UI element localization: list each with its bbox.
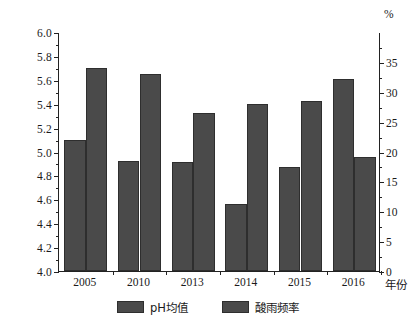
bar xyxy=(193,113,214,271)
bar xyxy=(172,162,193,271)
left-axis-tick xyxy=(54,129,59,130)
bar xyxy=(64,140,85,271)
left-axis-minor-tick xyxy=(56,188,59,189)
right-axis-tick-label: 20 xyxy=(386,147,398,159)
right-axis-minor-tick xyxy=(379,138,382,139)
left-axis-tick-label: 5.2 xyxy=(37,123,52,135)
x-axis-tick xyxy=(166,271,167,275)
left-axis-tick xyxy=(54,57,59,58)
x-axis-label-2010: 2010 xyxy=(127,276,150,288)
left-axis-tick-label: 4.4 xyxy=(37,218,52,230)
right-axis-tick xyxy=(379,212,384,213)
x-axis-label-2014: 2014 xyxy=(234,276,257,288)
right-axis-tick xyxy=(379,123,384,124)
right-axis-tick xyxy=(379,153,384,154)
right-axis-tick-label: 25 xyxy=(386,117,398,129)
right-axis-minor-tick xyxy=(379,227,382,228)
left-axis-minor-tick xyxy=(56,164,59,165)
x-axis-tick xyxy=(113,271,114,275)
left-axis-minor-tick xyxy=(56,141,59,142)
bar xyxy=(86,68,107,271)
x-axis-tick xyxy=(274,271,275,275)
left-axis-tick-label: 4.0 xyxy=(37,266,52,278)
bar xyxy=(225,204,246,271)
x-axis-label-2016: 2016 xyxy=(342,276,365,288)
right-axis-tick-label: 35 xyxy=(386,57,398,69)
left-axis-tick-label: 5.4 xyxy=(37,99,52,111)
left-axis-tick xyxy=(54,153,59,154)
right-axis-minor-tick xyxy=(379,257,382,258)
bar xyxy=(118,161,139,271)
x-axis-label-2015: 2015 xyxy=(288,276,311,288)
bar xyxy=(279,167,300,271)
legend-item-acid-rain-frequency[interactable]: 酸雨频率 xyxy=(222,299,299,315)
bar xyxy=(247,104,268,271)
x-axis-label-2005: 2005 xyxy=(73,276,96,288)
right-axis-minor-tick xyxy=(379,167,382,168)
right-axis-tick-label: 10 xyxy=(386,206,398,218)
left-axis-minor-tick xyxy=(56,212,59,213)
legend-label-acid-rain-frequency: 酸雨频率 xyxy=(255,299,299,315)
left-axis-tick xyxy=(54,200,59,201)
left-axis-tick xyxy=(54,272,59,273)
legend-swatch-acid-rain-frequency xyxy=(222,301,249,313)
left-axis-minor-tick xyxy=(56,93,59,94)
right-axis-tick-label: 15 xyxy=(386,176,398,188)
x-axis-label-2013: 2013 xyxy=(181,276,204,288)
left-axis-tick xyxy=(54,176,59,177)
left-axis-minor-tick xyxy=(56,236,59,237)
left-axis-tick-label: 4.2 xyxy=(37,242,52,254)
bar xyxy=(333,79,354,271)
x-axis-tick xyxy=(220,271,221,275)
right-axis-minor-tick xyxy=(379,48,382,49)
left-axis-tick xyxy=(54,248,59,249)
left-axis-tick-label: 4.6 xyxy=(37,194,52,206)
right-axis-tick xyxy=(379,182,384,183)
left-axis-minor-tick xyxy=(56,117,59,118)
legend-item-ph[interactable]: pH均值 xyxy=(117,299,188,315)
x-axis-tick xyxy=(381,271,382,275)
left-axis-tick-label: 5.0 xyxy=(37,147,52,159)
left-axis-tick-label: 6.0 xyxy=(37,27,52,39)
bar xyxy=(354,157,375,271)
right-axis-minor-tick xyxy=(379,108,382,109)
left-axis-minor-tick xyxy=(56,69,59,70)
left-axis-tick xyxy=(54,224,59,225)
right-axis-tick-label: 5 xyxy=(386,236,392,248)
legend-swatch-ph xyxy=(117,301,144,313)
left-axis-tick xyxy=(54,81,59,82)
chart-legend: pH均值 酸雨频率 xyxy=(0,299,416,315)
left-axis-tick xyxy=(54,105,59,106)
bar xyxy=(301,101,322,271)
right-axis-tick xyxy=(379,242,384,243)
x-axis-title: 年份 xyxy=(385,276,407,292)
left-axis-tick-label: 4.8 xyxy=(37,170,52,182)
acid-rain-bar-chart: % 4.04.24.44.64.85.05.25.45.65.86.0 0510… xyxy=(0,0,416,332)
right-axis-minor-tick xyxy=(379,197,382,198)
right-axis-tick-label: 30 xyxy=(386,87,398,99)
right-axis-minor-tick xyxy=(379,78,382,79)
legend-label-ph: pH均值 xyxy=(150,299,188,315)
left-axis-minor-tick xyxy=(56,260,59,261)
right-axis-unit-label: % xyxy=(384,8,394,20)
right-axis-tick xyxy=(379,93,384,94)
left-axis-tick-label: 5.6 xyxy=(37,75,52,87)
x-axis-tick xyxy=(327,271,328,275)
bar xyxy=(140,74,161,271)
left-axis-minor-tick xyxy=(56,45,59,46)
right-axis-tick xyxy=(379,63,384,64)
left-axis-tick xyxy=(54,33,59,34)
plot-area: 4.04.24.44.64.85.05.25.45.65.86.0 051015… xyxy=(58,33,380,272)
left-axis-tick-label: 5.8 xyxy=(37,51,52,63)
